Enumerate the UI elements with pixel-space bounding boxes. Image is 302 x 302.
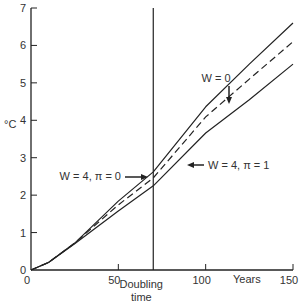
y-ticks: 01234567 <box>20 2 37 276</box>
doubling-time-marker: Doublingtime <box>120 8 163 302</box>
x-tick-label: 100 <box>192 274 210 286</box>
doubling-time-label: Doubling <box>120 278 163 290</box>
y-tick-label: 6 <box>20 39 26 51</box>
series-line-1 <box>31 42 293 270</box>
series-line-0 <box>31 23 293 270</box>
annotation-w4-pi0: W = 4, π = 0 <box>60 170 121 182</box>
doubling-time-label: time <box>131 291 152 302</box>
y-tick-label: 2 <box>20 189 26 201</box>
temperature-chart: 01234567 050100150 Doublingtime W = 0W =… <box>0 0 302 302</box>
arrow-head-icon <box>187 162 194 168</box>
chart-svg: 01234567 050100150 Doublingtime W = 0W =… <box>0 0 302 302</box>
arrow-head-icon <box>226 97 232 104</box>
series-lines <box>31 23 293 270</box>
y-tick-label: 4 <box>20 114 26 126</box>
y-tick-label: 3 <box>20 152 26 164</box>
x-tick-label: 0 <box>24 274 30 286</box>
y-tick-label: 5 <box>20 77 26 89</box>
annotation-w4-pi1: W = 4, π = 1 <box>208 159 269 171</box>
axes <box>31 8 293 270</box>
y-tick-label: 1 <box>20 227 26 239</box>
annotation-w0: W = 0 <box>201 72 230 84</box>
x-tick-label: 150 <box>280 274 298 286</box>
y-tick-label: 7 <box>20 2 26 14</box>
y-axis-label: °C <box>4 118 16 130</box>
x-axis-label: Years <box>233 273 261 285</box>
